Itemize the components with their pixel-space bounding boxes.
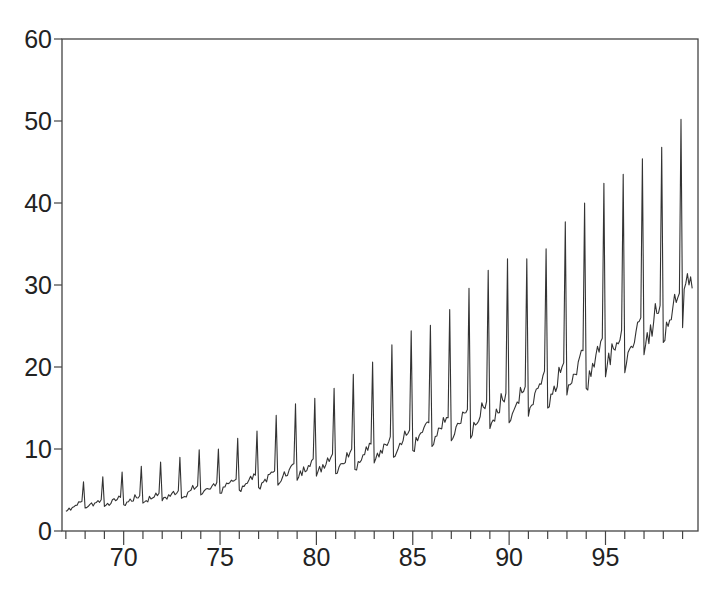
x-tick-label: 80 [302, 543, 330, 571]
y-tick-label: 10 [24, 435, 52, 463]
x-tick-label: 85 [399, 543, 427, 571]
x-tick-label: 95 [592, 543, 620, 571]
x-tick-label: 90 [495, 543, 523, 571]
x-axis: 707580859095 [66, 531, 683, 571]
line-chart: 0102030405060 707580859095 [0, 0, 720, 590]
y-tick-label: 20 [24, 353, 52, 381]
y-tick-label: 0 [38, 517, 52, 545]
x-tick-label: 70 [110, 543, 138, 571]
y-tick-label: 30 [24, 271, 52, 299]
x-tick-label: 75 [206, 543, 234, 571]
y-axis: 0102030405060 [24, 25, 62, 545]
y-tick-label: 40 [24, 189, 52, 217]
y-tick-label: 50 [24, 107, 52, 135]
y-tick-label: 60 [24, 25, 52, 53]
